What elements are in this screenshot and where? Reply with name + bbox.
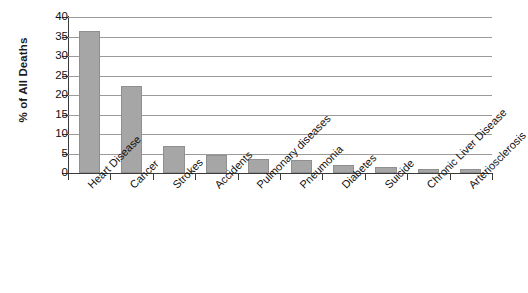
x-category-label: Cancer	[128, 158, 161, 191]
x-category-label: Pneumonia	[298, 144, 345, 191]
x-category-label: Chronic Liver Disease	[425, 107, 509, 191]
x-category-label: Pulmonary diseases	[255, 113, 333, 191]
x-category-label: Accidents	[213, 149, 255, 191]
x-category-label: Suicide	[383, 157, 416, 190]
x-category-label: Diabetes	[340, 152, 378, 190]
x-category-label: Strokes	[171, 157, 205, 191]
